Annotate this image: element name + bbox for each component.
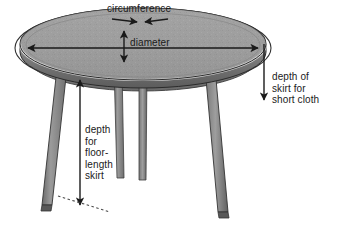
label-circumference: circumference [107, 3, 171, 15]
table-leg-front-right-foot [218, 212, 229, 218]
table-leg-front-left-foot [41, 205, 52, 211]
label-depth-floor-length-skirt: depth for floor- length skirt [85, 124, 113, 182]
label-depth-short-cloth: depth of skirt for short cloth [272, 71, 319, 106]
table-leg-front-left [42, 68, 67, 205]
diagram-canvas [0, 0, 343, 234]
table-leg-front-right [205, 68, 228, 212]
table-measurement-diagram: circumference diameter depth of skirt fo… [0, 0, 343, 234]
label-diameter: diameter [130, 37, 170, 49]
floor-dashed-line [58, 196, 110, 212]
